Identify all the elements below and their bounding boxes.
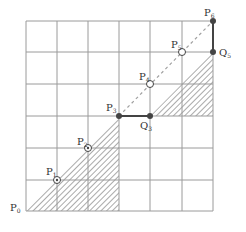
label-P2: P2 <box>77 136 88 148</box>
label-Q5: Q5 <box>219 47 231 59</box>
grid-diagram: P0P1P2P3Q3P4P5Q5P6 <box>0 0 246 232</box>
hatched-lower-left-triangle <box>26 116 119 211</box>
label-P0: P0 <box>10 202 21 214</box>
label-P3: P3 <box>106 102 117 114</box>
point-P3-dot-icon <box>116 113 122 119</box>
point-Q3-dot-icon <box>147 113 153 119</box>
label-P6: P6 <box>204 7 215 19</box>
point-Q5-dot-icon <box>210 49 216 55</box>
label-P1: P1 <box>46 166 57 178</box>
label-P4: P4 <box>139 71 150 83</box>
label-P5: P5 <box>171 39 182 51</box>
